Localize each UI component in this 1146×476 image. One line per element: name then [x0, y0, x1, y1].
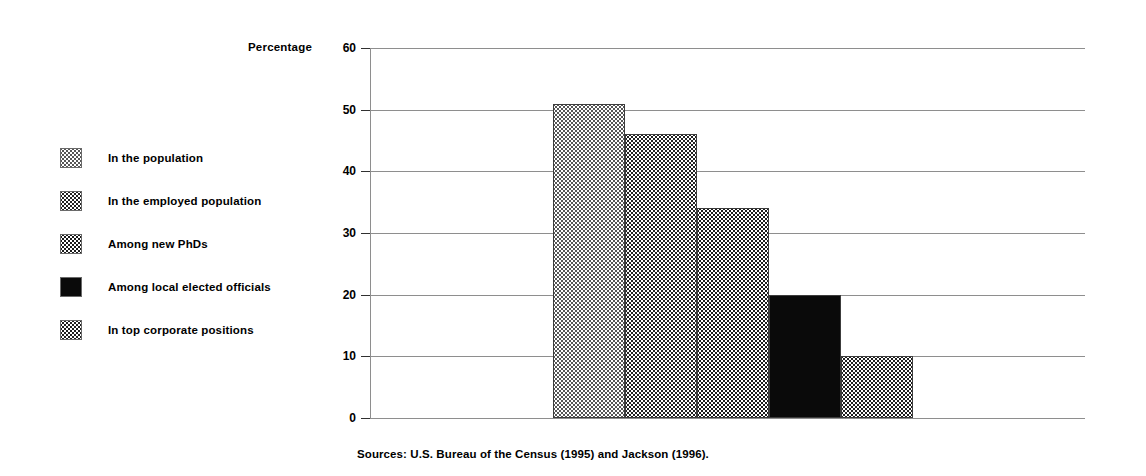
legend-item-label: Among local elected officials: [108, 277, 271, 297]
legend-item: In the employed population: [60, 191, 330, 211]
y-tick-mark: [361, 418, 370, 419]
y-tick-label: 10: [343, 356, 356, 357]
legend-item: Among new PhDs: [60, 234, 330, 254]
bar: [697, 208, 769, 418]
bar: [553, 104, 625, 419]
solid-black-swatch-icon: [60, 277, 82, 297]
y-tick-mark: [361, 110, 370, 111]
y-tick-label: 30: [343, 233, 356, 234]
legend-item-label: In the employed population: [108, 191, 261, 211]
y-tick-label: 20: [343, 294, 356, 295]
y-tick-mark: [361, 295, 370, 296]
light-dotted-swatch-icon: [60, 148, 82, 168]
y-tick-label: 50: [343, 109, 356, 110]
plot-area: 0102030405060: [370, 48, 1085, 418]
bar: [841, 356, 913, 418]
y-tick-mark: [361, 48, 370, 49]
source-note: Sources: U.S. Bureau of the Census (1995…: [357, 448, 709, 460]
legend-item-label: In the population: [108, 148, 203, 168]
bar: [625, 134, 697, 418]
legend-item: Among local elected officials: [60, 277, 330, 297]
y-tick-label: 60: [343, 48, 356, 49]
y-tick-label: 40: [343, 171, 356, 172]
medium-dotted-swatch-icon: [60, 191, 82, 211]
chart-legend: In the population In the employed popula…: [60, 148, 330, 363]
dark-dotted-swatch-icon: [60, 234, 82, 254]
figure-container: In the population In the employed popula…: [0, 0, 1146, 476]
y-tick-mark: [361, 233, 370, 234]
legend-item: In top corporate positions: [60, 320, 330, 340]
gridline: [370, 418, 1085, 419]
bar-series: [553, 48, 913, 418]
checker-dotted-swatch-icon: [60, 320, 82, 340]
y-tick-label: 0: [349, 418, 356, 419]
y-tick-mark: [361, 356, 370, 357]
legend-item: In the population: [60, 148, 330, 168]
legend-item-label: In top corporate positions: [108, 320, 254, 340]
legend-item-label: Among new PhDs: [108, 234, 208, 254]
y-tick-mark: [361, 171, 370, 172]
bar: [769, 295, 841, 418]
y-axis-title: Percentage: [248, 41, 312, 53]
